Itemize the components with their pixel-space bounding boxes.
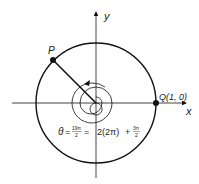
spiral-arrowhead-icon xyxy=(84,80,90,86)
svg-text:2(2π): 2(2π) xyxy=(97,127,119,137)
svg-text:19π: 19π xyxy=(72,125,82,131)
svg-text:3π: 3π xyxy=(133,125,140,131)
svg-text:=: = xyxy=(84,127,89,137)
svg-text:θ: θ xyxy=(58,126,64,137)
point-p-label: P xyxy=(48,45,55,56)
svg-text:=: = xyxy=(65,127,70,137)
unit-circle-diagram: y x P Q(1, 0) θ = 19π 2 = 2(2π) + 3π 2 xyxy=(0,0,199,184)
y-axis-label: y xyxy=(103,10,111,22)
angle-formula: θ = 19π 2 = 2(2π) + 3π 2 xyxy=(58,125,140,138)
svg-text:2: 2 xyxy=(135,132,138,138)
point-p xyxy=(50,57,56,63)
svg-text:+: + xyxy=(125,127,130,137)
x-axis-label: x xyxy=(185,105,192,117)
point-q-label: Q(1, 0) xyxy=(159,92,187,102)
svg-text:2: 2 xyxy=(75,132,78,138)
